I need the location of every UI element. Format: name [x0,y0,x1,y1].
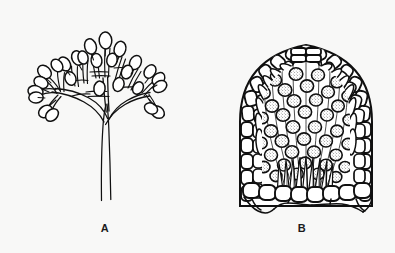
spore [320,135,333,147]
spore [312,69,325,81]
spore [297,133,310,145]
spore [339,162,351,173]
spore [287,95,301,108]
line-drawing-canvas [0,0,395,253]
spore [275,135,289,148]
spore [276,109,290,122]
illustration-plate: A B [0,0,395,253]
spore [332,100,345,112]
spore [308,146,321,158]
spore [330,149,342,161]
spore [322,86,335,98]
spore [265,100,278,112]
spore [285,146,298,158]
spore [300,80,313,92]
sporangium [99,32,113,50]
figure-label-a: A [93,222,117,234]
spore [331,125,344,137]
spore [265,149,278,161]
figure-label-b: B [290,222,314,234]
spore [289,68,303,80]
spore [286,121,300,134]
spore [264,125,277,137]
spore [321,109,334,121]
spore [310,94,323,106]
figure-b-perithecium [240,44,372,212]
spore [278,84,292,97]
spore [309,121,322,133]
spore [298,106,311,118]
